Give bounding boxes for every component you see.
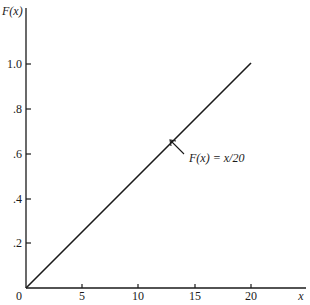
annotation-arrow xyxy=(170,140,184,154)
cdf-line xyxy=(26,63,251,288)
x-axis-label: x xyxy=(297,289,304,303)
y-tick-label: 1.0 xyxy=(7,57,22,71)
x-tick-label: 20 xyxy=(245,289,257,303)
y-ticks xyxy=(26,64,31,243)
y-tick-label: .2 xyxy=(13,236,22,250)
x-tick-label: 10 xyxy=(132,289,144,303)
chart: 1.0 .8 .6 .4 .2 0 5 10 15 20 F(x) x F(x)… xyxy=(0,0,310,305)
y-tick-label: .8 xyxy=(13,102,22,116)
x-tick-label: 0 xyxy=(16,289,22,303)
x-tick-label: 5 xyxy=(79,289,85,303)
y-tick-label: .4 xyxy=(13,192,22,206)
y-tick-label: .6 xyxy=(13,147,22,161)
annotation-label: F(x) = x/20 xyxy=(188,151,244,165)
x-tick-label: 15 xyxy=(189,289,201,303)
y-axis-label: F(x) xyxy=(1,4,23,18)
